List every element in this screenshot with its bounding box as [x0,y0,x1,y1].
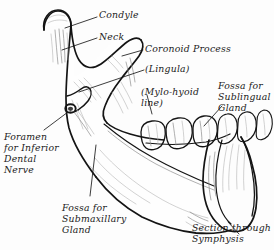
label-fossa-submaxillary-3: Gland [62,224,91,235]
label-fossa-submaxillary-1: Fossa for [62,202,107,213]
label-coronoid-process: Coronoid Process [145,43,231,54]
label-foramen-4: Nerve [4,164,34,175]
leader-foramen-inferior-dental [44,112,68,130]
label-condyle: Condyle [99,9,139,20]
label-fossa-sublingual-1: Fossa for [218,80,263,91]
label-mylohyoid-line-1: (Mylo-hyoid [141,86,199,97]
tooth-premolar-2 [217,114,237,144]
mandible-diagram: Condyle Neck Coronoid Process (Lingula) … [0,0,274,250]
label-fossa-sublingual-2: Sublingual [218,91,271,102]
tooth-premolar-1 [237,112,256,142]
label-foramen-1: Foramen [4,131,47,142]
label-section-symphysis-1: Section through [192,222,271,233]
label-neck: Neck [99,31,124,42]
label-fossa-submaxillary-2: Submaxillary [62,213,126,224]
label-section-symphysis-2: Symphysis [192,233,244,244]
label-lingula: (Lingula) [145,63,190,74]
mandibular-foramen-inner [68,107,73,111]
label-fossa-sublingual-3: Gland [218,102,247,113]
mandible-drawing [0,0,274,250]
neck-shading [51,29,68,64]
label-foramen-2: for Inferior [4,142,59,153]
label-mylohyoid-line-2: line) [141,97,163,108]
label-foramen-3: Dental [4,153,36,164]
